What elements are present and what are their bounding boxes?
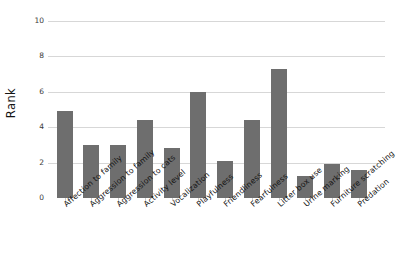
bar-chart-figure: Rank 0246810 Affection to familyAggressi… — [0, 0, 397, 280]
y-tick-label: 0 — [26, 193, 44, 202]
y-tick-label: 4 — [26, 122, 44, 131]
bar — [57, 111, 73, 198]
y-tick-label: 6 — [26, 87, 44, 96]
x-axis-tick-labels: Affection to familyAggression to familyA… — [48, 198, 388, 280]
y-axis-title: Rank — [4, 73, 18, 133]
y-tick-label: 10 — [26, 16, 44, 25]
y-tick-label: 2 — [26, 158, 44, 167]
y-tick-label: 8 — [26, 51, 44, 60]
